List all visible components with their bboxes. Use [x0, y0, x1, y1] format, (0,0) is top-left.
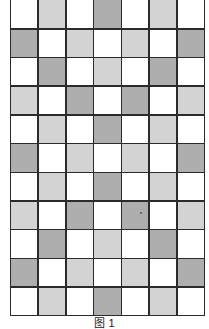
grid-cell [11, 202, 37, 229]
grid-cell [67, 173, 93, 200]
grid-cell [11, 58, 37, 85]
grid-cell [178, 144, 204, 171]
grid-cell [178, 288, 204, 315]
grid-cell [94, 202, 120, 229]
grid-cell [150, 30, 176, 57]
grid-cell [11, 259, 37, 286]
grid-cell [67, 30, 93, 57]
grid-cell [150, 259, 176, 286]
grid-cell [67, 87, 93, 114]
grid-cell [67, 0, 93, 28]
grid-cell [150, 288, 176, 315]
grid-cell [150, 87, 176, 114]
grid-cell [150, 144, 176, 171]
grid-cell [39, 144, 65, 171]
grid-cell [150, 58, 176, 85]
grid-cell [178, 0, 204, 28]
grid-cell [11, 173, 37, 200]
grid-cell [67, 259, 93, 286]
grid-cell [122, 288, 148, 315]
grid-cell [39, 58, 65, 85]
grid-cell [94, 30, 120, 57]
grid-cell [39, 0, 65, 28]
grid-cell [67, 230, 93, 257]
grid-cell [11, 288, 37, 315]
grid-cell [122, 30, 148, 57]
grid-cell [178, 58, 204, 85]
grid-cell [178, 173, 204, 200]
grid-cell [39, 288, 65, 315]
grid-cell [122, 58, 148, 85]
grid-cell [122, 116, 148, 143]
grid-cell [39, 30, 65, 57]
dot-mark [140, 212, 142, 214]
grid-cell [94, 116, 120, 143]
grid-cell [67, 144, 93, 171]
grid-cell [150, 0, 176, 28]
checker-grid [10, 0, 205, 316]
grid-cell [39, 87, 65, 114]
grid-cell [178, 87, 204, 114]
figure-caption: 图 1 [0, 318, 209, 329]
grid-cell [67, 288, 93, 315]
grid-cell [94, 144, 120, 171]
grid-cell [67, 116, 93, 143]
grid-cell [94, 87, 120, 114]
grid-cell [150, 116, 176, 143]
grid-cell [11, 144, 37, 171]
grid-cell [67, 202, 93, 229]
grid-cell [94, 58, 120, 85]
grid-cell [94, 0, 120, 28]
grid-cell [11, 30, 37, 57]
grid-cell [150, 173, 176, 200]
grid-cell [67, 58, 93, 85]
grid-cell [178, 259, 204, 286]
grid-cell [11, 230, 37, 257]
grid-cell [39, 259, 65, 286]
grid-cell [94, 288, 120, 315]
grid-cell [11, 87, 37, 114]
grid-cell [94, 230, 120, 257]
grid-cell [178, 116, 204, 143]
grid-cell [94, 173, 120, 200]
grid-cell [122, 259, 148, 286]
grid-cell [122, 202, 148, 229]
grid-cell [150, 230, 176, 257]
grid-cell [39, 173, 65, 200]
grid-cell [122, 144, 148, 171]
grid-cell [122, 87, 148, 114]
grid-cell [39, 230, 65, 257]
grid-cell [150, 202, 176, 229]
grid-cell [122, 173, 148, 200]
grid-cell [178, 202, 204, 229]
grid-cell [11, 0, 37, 28]
grid-cell [178, 30, 204, 57]
grid-cell [122, 230, 148, 257]
grid-cell [178, 230, 204, 257]
grid-cell [11, 116, 37, 143]
grid-cell [122, 0, 148, 28]
grid-cell [39, 116, 65, 143]
grid-cell [94, 259, 120, 286]
grid-cell [39, 202, 65, 229]
